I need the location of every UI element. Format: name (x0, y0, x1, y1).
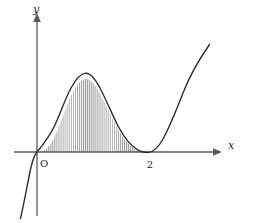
figure-container: y x O 2 (0, 0, 254, 223)
x-tick-label-2: 2 (147, 159, 153, 170)
x-axis-arrowhead (213, 148, 222, 156)
function-plot: y x O 2 (0, 0, 254, 223)
origin-label: O (40, 158, 48, 169)
x-axis-label: x (228, 139, 235, 152)
y-axis-group (33, 13, 41, 216)
y-axis-label: y (32, 3, 40, 16)
hatch-fill (36, 60, 152, 155)
shaded-region (36, 60, 152, 155)
